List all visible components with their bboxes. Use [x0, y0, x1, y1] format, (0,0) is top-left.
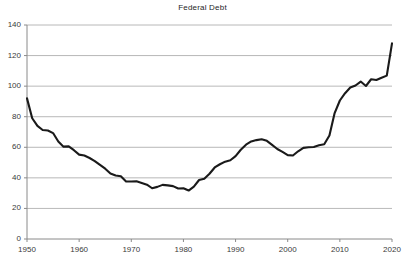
y-tick-label: 40 [1, 173, 21, 182]
y-tick-label: 100 [1, 81, 21, 90]
y-tick-label: 0 [1, 234, 21, 243]
x-tick-label: 2010 [323, 245, 357, 254]
x-tick-label: 1990 [219, 245, 253, 254]
y-tick-label: 140 [1, 20, 21, 29]
x-tick-label: 2020 [375, 245, 405, 254]
federal-debt-chart: Federal Debt 020406080100120140 19501960… [0, 0, 405, 267]
y-tick-label: 80 [1, 112, 21, 121]
x-tick-label: 1950 [10, 245, 44, 254]
axis-lines-group [27, 25, 392, 239]
y-tick-label: 20 [1, 203, 21, 212]
gridlines-group [24, 25, 392, 239]
x-tick-label: 2000 [271, 245, 305, 254]
x-tick-label: 1960 [62, 245, 96, 254]
y-tick-label: 120 [1, 51, 21, 60]
plot-area [0, 0, 405, 267]
x-tick-label: 1970 [114, 245, 148, 254]
x-tick-label: 1980 [166, 245, 200, 254]
y-tick-label: 60 [1, 142, 21, 151]
